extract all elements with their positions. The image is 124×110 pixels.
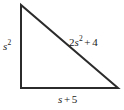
base-operator: + (64, 93, 70, 105)
base-label: s+5 (58, 94, 77, 105)
hypotenuse-label: 2s2+4 (69, 37, 98, 48)
hypotenuse-operator: + (84, 36, 90, 48)
base-constant: 5 (72, 93, 78, 105)
hypotenuse-constant: 4 (92, 36, 98, 48)
left-leg-label: s2 (3, 41, 11, 52)
hypotenuse-exponent: 2 (79, 34, 83, 43)
triangle-diagram: s2 2s2+4 s+5 (0, 0, 124, 110)
base-variable: s (58, 93, 62, 105)
left-leg-exponent: 2 (7, 38, 11, 47)
